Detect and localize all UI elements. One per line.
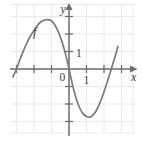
graph-svg: f y x 0 1 1 — [0, 0, 143, 146]
y-axis-label: y — [60, 2, 67, 16]
curve-label-f: f — [33, 24, 39, 39]
x-axis — [10, 65, 138, 72]
y-unit-label: 1 — [76, 47, 82, 59]
x-axis-label: x — [130, 70, 137, 84]
function-graph-figure: f y x 0 1 1 — [0, 0, 143, 146]
x-unit-label: 1 — [84, 74, 90, 86]
origin-label: 0 — [60, 71, 66, 83]
